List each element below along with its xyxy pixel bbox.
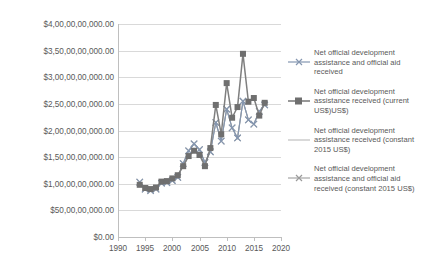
series-1 xyxy=(137,98,268,194)
data-point xyxy=(229,115,235,121)
legend-label: Net official development assistance rece… xyxy=(314,87,421,116)
legend-marker-constant-2015 xyxy=(288,135,310,145)
data-point xyxy=(245,117,251,123)
data-point xyxy=(224,80,230,86)
data-point xyxy=(235,104,241,110)
legend-label: Net official development assistance and … xyxy=(314,164,421,193)
series-3 xyxy=(140,101,265,190)
data-point xyxy=(218,131,224,137)
series-4 xyxy=(137,98,268,194)
data-point xyxy=(153,184,159,190)
x-axis-labels: 1990 1995 2000 2005 2010 2015 2020 xyxy=(0,244,421,258)
data-point xyxy=(180,163,186,169)
data-point xyxy=(197,152,203,158)
series-line xyxy=(140,101,265,190)
legend-label: Net official development assistance rece… xyxy=(314,126,421,155)
data-point xyxy=(202,163,208,169)
data-point xyxy=(207,145,213,151)
data-point xyxy=(262,100,268,106)
legend-item[interactable]: Net official development assistance and … xyxy=(288,164,421,193)
data-point xyxy=(169,175,175,181)
data-point xyxy=(164,178,170,184)
data-point xyxy=(196,146,202,152)
chart-legend: Net official development assistance and … xyxy=(288,48,421,203)
legend-marker-current-usd xyxy=(288,96,310,106)
legend-label: Net official development assistance and … xyxy=(314,48,421,77)
data-point xyxy=(191,141,197,147)
series-2 xyxy=(137,51,268,192)
x-tick-label: 2020 xyxy=(265,244,297,254)
data-point xyxy=(175,172,181,178)
chart-container: $4,00,00,00,000.00 $3,50,00,00,000.00 $3… xyxy=(0,0,421,277)
data-point xyxy=(186,153,192,159)
data-point xyxy=(158,179,164,185)
series-line xyxy=(140,101,265,190)
legend-item[interactable]: Net official development assistance rece… xyxy=(288,87,421,116)
legend-item[interactable]: Net official development assistance and … xyxy=(288,48,421,77)
legend-item[interactable]: Net official development assistance rece… xyxy=(288,126,421,155)
data-point xyxy=(229,125,235,131)
data-point xyxy=(213,102,219,108)
data-point xyxy=(142,185,148,191)
data-point xyxy=(137,182,143,188)
data-point xyxy=(245,99,251,105)
data-point xyxy=(191,148,197,154)
data-point xyxy=(148,186,154,192)
series-line xyxy=(140,101,265,190)
legend-marker-aid-constant-2015 xyxy=(288,173,310,183)
legend-marker-aid-received xyxy=(288,57,310,67)
data-point xyxy=(251,95,257,101)
data-point xyxy=(240,51,246,57)
data-point xyxy=(251,121,257,127)
data-point xyxy=(256,113,262,119)
